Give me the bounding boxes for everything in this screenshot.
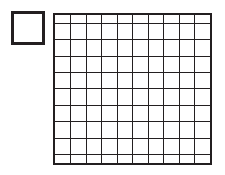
grid-cell	[55, 155, 71, 163]
grid-cell	[164, 89, 180, 105]
grid-cell	[86, 73, 102, 89]
grid-cell	[117, 122, 133, 138]
unit-square	[11, 11, 45, 45]
grid-cell	[195, 23, 211, 39]
grid-cell	[71, 89, 87, 105]
grid-cell	[164, 122, 180, 138]
grid-cell	[164, 155, 180, 163]
grid-cell	[148, 105, 164, 121]
grid-row	[55, 105, 210, 121]
grid-cell	[86, 105, 102, 121]
grid-cell	[117, 56, 133, 72]
grid-cell	[117, 73, 133, 89]
grid-cell	[71, 105, 87, 121]
grid-cell	[179, 138, 195, 154]
grid-row	[55, 155, 210, 163]
grid-cell	[148, 23, 164, 39]
diagram-canvas	[0, 0, 225, 175]
grid-cell	[117, 105, 133, 121]
grid-cell	[148, 155, 164, 163]
grid-cell	[102, 122, 118, 138]
grid-row	[55, 138, 210, 154]
grid-cell	[133, 15, 149, 23]
grid-cell	[179, 155, 195, 163]
grid-cell	[102, 155, 118, 163]
grid-cell	[102, 56, 118, 72]
grid-cell	[148, 15, 164, 23]
grid-cell	[86, 15, 102, 23]
grid-cell	[71, 122, 87, 138]
grid-cell	[86, 155, 102, 163]
grid-cell	[102, 138, 118, 154]
grid-row	[55, 89, 210, 105]
grid-row	[55, 23, 210, 39]
grid-cell	[133, 155, 149, 163]
grid-cell	[179, 89, 195, 105]
grid-row	[55, 15, 210, 23]
grid-cell	[102, 89, 118, 105]
grid-cell	[71, 23, 87, 39]
grid-row	[55, 56, 210, 72]
grid-cell	[164, 56, 180, 72]
grid-cell	[86, 40, 102, 56]
grid-cell	[71, 15, 87, 23]
grid-cell	[164, 105, 180, 121]
grid-cell	[164, 40, 180, 56]
grid-cell	[55, 138, 71, 154]
grid-cell	[164, 138, 180, 154]
grid-body	[55, 15, 210, 163]
grid-cell	[117, 23, 133, 39]
grid-cell	[179, 105, 195, 121]
grid-row	[55, 73, 210, 89]
grid-cell	[55, 23, 71, 39]
grid-cell	[71, 40, 87, 56]
grid-cell	[102, 23, 118, 39]
grid-row	[55, 122, 210, 138]
grid-cell	[148, 56, 164, 72]
grid-cell	[55, 122, 71, 138]
grid-cell	[133, 89, 149, 105]
grid-cell	[133, 56, 149, 72]
grid-cell	[71, 73, 87, 89]
grid-cell	[133, 40, 149, 56]
hundred-square-grid	[53, 13, 212, 165]
grid-cell	[195, 56, 211, 72]
grid-cell	[148, 40, 164, 56]
grid-cell	[55, 73, 71, 89]
grid-cell	[195, 105, 211, 121]
grid-cell	[86, 138, 102, 154]
grid-cell	[179, 23, 195, 39]
grid-cell	[179, 122, 195, 138]
grid-cell	[55, 105, 71, 121]
grid-cell	[148, 73, 164, 89]
grid-cell	[133, 105, 149, 121]
grid-cell	[195, 73, 211, 89]
grid-cell	[102, 73, 118, 89]
grid-cell	[117, 155, 133, 163]
grid-cell	[71, 56, 87, 72]
grid-cell	[133, 122, 149, 138]
grid-cell	[102, 40, 118, 56]
grid-cell	[164, 15, 180, 23]
grid-row	[55, 40, 210, 56]
grid-cell	[55, 56, 71, 72]
grid-cell	[133, 138, 149, 154]
grid-cell	[55, 15, 71, 23]
grid-cell	[86, 122, 102, 138]
grid-cell	[102, 105, 118, 121]
grid-cell	[117, 89, 133, 105]
grid-cell	[117, 138, 133, 154]
grid-cell	[195, 89, 211, 105]
grid-cell	[148, 138, 164, 154]
grid-cell	[71, 138, 87, 154]
grid-cell	[195, 15, 211, 23]
grid-table	[55, 15, 210, 163]
grid-cell	[86, 56, 102, 72]
grid-cell	[133, 23, 149, 39]
grid-cell	[71, 155, 87, 163]
grid-cell	[86, 23, 102, 39]
grid-cell	[102, 15, 118, 23]
grid-cell	[195, 138, 211, 154]
grid-cell	[117, 15, 133, 23]
grid-cell	[164, 23, 180, 39]
